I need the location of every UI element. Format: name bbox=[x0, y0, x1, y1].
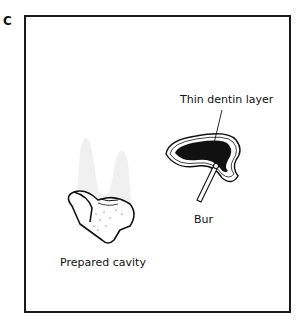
label-thin-dentin-layer: Thin dentin layer bbox=[180, 93, 273, 106]
label-prepared-cavity: Prepared cavity bbox=[60, 256, 146, 269]
cavity-cross-section-icon bbox=[166, 134, 240, 182]
bur-icon bbox=[197, 164, 219, 203]
dental-illustration bbox=[0, 0, 302, 326]
label-bur: Bur bbox=[194, 213, 213, 226]
